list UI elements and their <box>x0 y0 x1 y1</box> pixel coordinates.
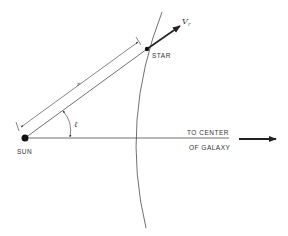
center-label-line1: TO CENTER <box>187 129 229 136</box>
galactic-orbit-arc <box>136 12 162 228</box>
center-label-line2: OF GALAXY <box>189 144 231 151</box>
velocity-subscript: r <box>188 21 191 27</box>
line-of-sight <box>25 49 147 138</box>
angle-arc <box>63 111 71 137</box>
star-label: STAR <box>152 52 171 59</box>
sun-icon <box>22 135 29 142</box>
star-icon <box>145 47 149 51</box>
angle-label: ℓ <box>74 120 78 129</box>
distance-tick-end <box>136 37 141 45</box>
distance-tick-start <box>16 122 19 131</box>
radial-velocity-arrow-icon <box>147 26 180 49</box>
sun-label: SUN <box>17 148 32 155</box>
galactic-diagram: SUN STAR V r r ℓ TO CENTER OF GALAXY <box>0 0 288 236</box>
